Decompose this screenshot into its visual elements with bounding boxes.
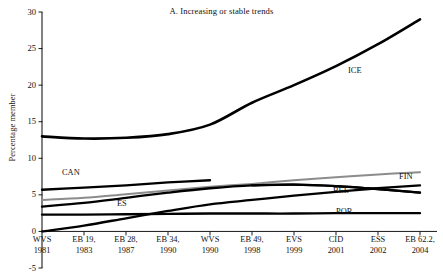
series-lines [42, 19, 420, 231]
series-line-lower-rising [42, 185, 420, 231]
y-tick-label: 0 [12, 226, 36, 236]
chart-container: A. Increasing or stable trends Percentag… [0, 0, 443, 280]
series-label-ice: ICE [348, 66, 362, 75]
series-label-can: CAN [62, 168, 80, 177]
series-label-es: ES [117, 199, 127, 208]
series-label-por: POR [336, 207, 352, 216]
series-line-por [42, 213, 420, 215]
series-label-fin: FIN [399, 172, 413, 181]
x-tick-label-line1: EB 62.2, [388, 235, 443, 246]
x-tick-label: EB 62.2,2004 [388, 235, 443, 256]
y-tick-label: 10 [12, 153, 36, 163]
series-line-ice [42, 19, 420, 138]
y-tick-label: 25 [12, 43, 36, 53]
y-tick-label: -5 [12, 263, 36, 273]
x-tick-label-line2: 2004 [388, 246, 443, 257]
y-tick-label: 15 [12, 116, 36, 126]
series-label-bel: BEL [333, 186, 349, 195]
y-tick-label: 30 [12, 7, 36, 17]
axes [39, 12, 438, 268]
y-tick-label: 20 [12, 80, 36, 90]
y-tick-label: 5 [12, 189, 36, 199]
